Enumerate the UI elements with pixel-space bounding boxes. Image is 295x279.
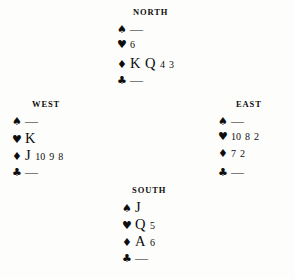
heart-icon: ♥ [117, 39, 130, 50]
suit-row-south-clubs: ♣ — [122, 251, 166, 268]
club-icon: ♣ [218, 167, 231, 178]
cards-west-clubs: — [25, 165, 38, 178]
card-6: 6 [130, 40, 135, 50]
void-mark: — [135, 251, 148, 264]
heart-icon: ♥ [12, 134, 25, 145]
spade-icon: ♠ [12, 116, 25, 127]
suit-row-west-diamonds: ♦ J1098 [12, 148, 63, 165]
cards-north-hearts: 6 [130, 40, 135, 50]
suit-row-east-spades: ♠ — [218, 114, 262, 131]
card-Q: Q [135, 217, 145, 232]
cards-east-spades: — [231, 114, 244, 127]
card-2: 2 [240, 149, 245, 159]
card-A: A [135, 234, 145, 249]
cards-east-diamonds: 72 [231, 149, 245, 159]
club-icon: ♣ [117, 75, 130, 86]
hand-label-south: SOUTH [122, 186, 166, 195]
card-K: K [25, 131, 35, 146]
diamond-icon: ♦ [117, 59, 130, 70]
cards-south-hearts: Q5 [135, 217, 155, 232]
card-10: 10 [231, 132, 241, 142]
hand-south: SOUTH ♠ J ♥ Q5 ♦ A6 ♣ — [122, 186, 166, 268]
cards-east-hearts: 1082 [231, 132, 259, 142]
void-mark: — [25, 114, 38, 127]
bridge-hand-diagram: NORTH ♠ — ♥ 6 ♦ KQ43 ♣ — WEST ♠ — ♥ K ♦ [0, 0, 295, 279]
void-mark: — [25, 165, 38, 178]
suit-row-north-spades: ♠ — [117, 22, 174, 39]
hand-east: EAST ♠ — ♥ 1082 ♦ 72 ♣ — [218, 100, 262, 182]
cards-north-diamonds: KQ43 [130, 56, 174, 71]
hand-west: WEST ♠ — ♥ K ♦ J1098 ♣ — [12, 100, 63, 182]
cards-north-spades: — [130, 22, 143, 35]
card-8: 8 [58, 152, 63, 162]
card-4: 4 [160, 60, 165, 70]
suit-row-west-clubs: ♣ — [12, 165, 63, 182]
suit-row-north-hearts: ♥ 6 [117, 39, 174, 56]
card-K: K [130, 56, 140, 71]
card-10: 10 [35, 152, 45, 162]
hand-label-east: EAST [218, 100, 262, 109]
suit-row-east-hearts: ♥ 1082 [218, 131, 262, 148]
suit-row-north-clubs: ♣ — [117, 73, 174, 90]
card-9: 9 [49, 152, 54, 162]
suit-row-west-hearts: ♥ K [12, 131, 63, 148]
card-J: J [25, 148, 31, 163]
card-6: 6 [150, 238, 155, 248]
suit-row-east-clubs: ♣ — [218, 165, 262, 182]
hand-north: NORTH ♠ — ♥ 6 ♦ KQ43 ♣ — [117, 8, 174, 90]
cards-south-diamonds: A6 [135, 234, 155, 249]
diamond-icon: ♦ [218, 148, 231, 159]
suit-row-south-spades: ♠ J [122, 200, 166, 217]
cards-north-clubs: — [130, 73, 143, 86]
card-2: 2 [254, 132, 259, 142]
heart-icon: ♥ [122, 220, 135, 231]
hand-label-north: NORTH [117, 8, 174, 17]
diamond-icon: ♦ [122, 237, 135, 248]
suit-row-south-diamonds: ♦ A6 [122, 234, 166, 251]
cards-east-clubs: — [231, 165, 244, 178]
diamond-icon: ♦ [12, 151, 25, 162]
suit-row-south-hearts: ♥ Q5 [122, 217, 166, 234]
cards-west-hearts: K [25, 131, 35, 146]
spade-icon: ♠ [218, 116, 231, 127]
cards-south-clubs: — [135, 251, 148, 264]
card-J: J [135, 200, 141, 215]
club-icon: ♣ [12, 167, 25, 178]
card-3: 3 [169, 60, 174, 70]
spade-icon: ♠ [117, 24, 130, 35]
void-mark: — [231, 165, 244, 178]
void-mark: — [231, 114, 244, 127]
spade-icon: ♠ [122, 203, 135, 214]
card-Q: Q [145, 56, 155, 71]
void-mark: — [130, 22, 143, 35]
hand-label-west: WEST [12, 100, 63, 109]
void-mark: — [130, 73, 143, 86]
cards-west-spades: — [25, 114, 38, 127]
club-icon: ♣ [122, 253, 135, 264]
card-8: 8 [245, 132, 250, 142]
card-7: 7 [231, 149, 236, 159]
cards-south-spades: J [135, 200, 141, 215]
heart-icon: ♥ [218, 131, 231, 142]
cards-west-diamonds: J1098 [25, 148, 63, 163]
suit-row-east-diamonds: ♦ 72 [218, 148, 262, 165]
suit-row-north-diamonds: ♦ KQ43 [117, 56, 174, 73]
suit-row-west-spades: ♠ — [12, 114, 63, 131]
card-5: 5 [150, 221, 155, 231]
